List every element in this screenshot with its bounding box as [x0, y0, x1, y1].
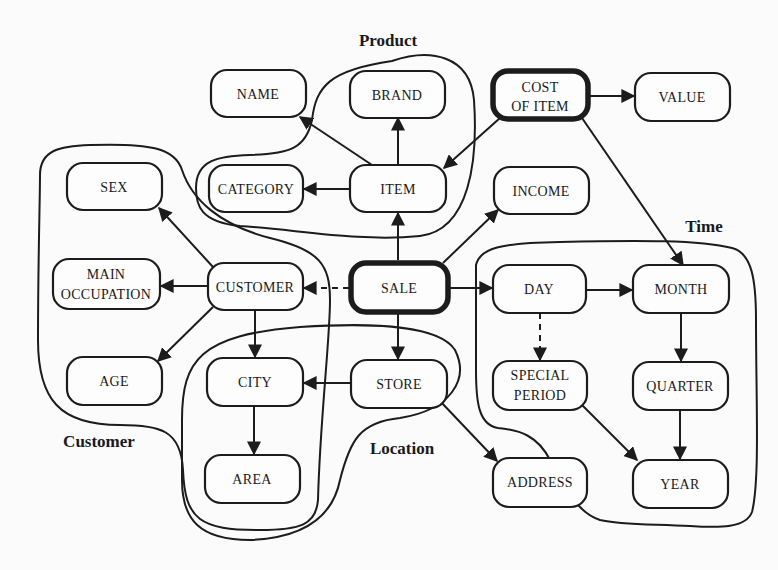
node-main-occupation-label-line2: OCCUPATION: [61, 287, 151, 302]
node-value-label: VALUE: [658, 90, 705, 105]
product-group-label: Product: [359, 31, 418, 50]
node-item[interactable]: ITEM: [350, 165, 446, 212]
node-age-label: AGE: [99, 374, 129, 389]
node-main-occupation-label-line1: MAIN: [87, 267, 126, 282]
node-sex[interactable]: SEX: [67, 163, 162, 210]
diagram-svg: Product Time Customer Location NAME BR: [0, 0, 778, 570]
node-value[interactable]: VALUE: [635, 73, 730, 121]
node-customer-label: CUSTOMER: [216, 280, 295, 295]
node-income-label: INCOME: [512, 184, 569, 199]
node-name[interactable]: NAME: [211, 70, 306, 117]
node-month[interactable]: MONTH: [633, 265, 729, 313]
node-item-label: ITEM: [380, 182, 416, 197]
node-city-label: CITY: [238, 375, 272, 390]
node-day-label: DAY: [524, 282, 554, 297]
node-area-label: AREA: [232, 472, 272, 487]
edge-special-period-year: [582, 405, 637, 460]
node-name-label: NAME: [237, 87, 279, 102]
node-cost-of-item-label-line2: OF ITEM: [511, 99, 569, 114]
node-address[interactable]: ADDRESS: [493, 458, 587, 507]
node-cost-of-item[interactable]: COST OF ITEM: [493, 71, 588, 119]
node-store[interactable]: STORE: [351, 360, 447, 408]
diagram-canvas: Product Time Customer Location NAME BR: [0, 0, 778, 570]
node-quarter-label: QUARTER: [646, 379, 714, 394]
time-group-label: Time: [685, 217, 723, 236]
edge-customer-sex: [159, 208, 213, 267]
node-quarter[interactable]: QUARTER: [633, 362, 728, 410]
node-sale[interactable]: SALE: [351, 263, 448, 312]
node-day[interactable]: DAY: [493, 265, 586, 313]
location-group-label: Location: [370, 439, 435, 458]
node-area[interactable]: AREA: [205, 455, 300, 503]
node-month-label: MONTH: [655, 282, 708, 297]
node-year-label: YEAR: [660, 477, 700, 492]
node-sex-label: SEX: [100, 180, 127, 195]
customer-group-label: Customer: [63, 432, 135, 451]
node-main-occupation[interactable]: MAIN OCCUPATION: [53, 259, 160, 309]
node-income[interactable]: INCOME: [494, 167, 589, 214]
node-sale-label: SALE: [381, 281, 417, 296]
node-brand[interactable]: BRAND: [350, 71, 445, 118]
node-special-period-label-line2: PERIOD: [514, 388, 566, 403]
node-address-label: ADDRESS: [507, 475, 573, 490]
node-special-period-label-line1: SPECIAL: [511, 368, 570, 383]
node-city[interactable]: CITY: [207, 358, 303, 406]
node-brand-label: BRAND: [372, 88, 423, 103]
node-age[interactable]: AGE: [67, 357, 162, 405]
node-store-label: STORE: [376, 377, 422, 392]
edge-cost-month: [582, 118, 683, 265]
node-year[interactable]: YEAR: [633, 460, 728, 508]
edge-store-address: [440, 401, 497, 461]
edge-item-name: [300, 117, 372, 165]
node-customer[interactable]: CUSTOMER: [208, 263, 303, 310]
node-category[interactable]: CATEGORY: [209, 165, 303, 212]
node-cost-of-item-label-line1: COST: [522, 80, 559, 95]
node-category-label: CATEGORY: [218, 182, 294, 197]
node-special-period[interactable]: SPECIAL PERIOD: [493, 361, 587, 410]
